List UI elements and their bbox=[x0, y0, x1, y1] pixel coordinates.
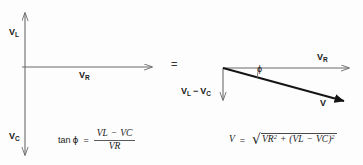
phasor-figure: VL VC VR = VR VL−VC V ϕ tanϕ = VL−VC VR … bbox=[0, 0, 363, 165]
formula-resultant-v: V = √ VR2+(VL−VC)2 bbox=[229, 133, 337, 147]
fraction-tan-phi: VL−VC VR bbox=[94, 129, 136, 151]
label-vl-minus-vc: VL−VC bbox=[181, 87, 211, 96]
label-vr-right: VR bbox=[317, 53, 328, 62]
label-phi-angle: ϕ bbox=[257, 66, 262, 74]
right-vector-resultant-v bbox=[223, 68, 344, 101]
label-resultant-v: V bbox=[320, 99, 326, 108]
equals-sign: = bbox=[171, 59, 177, 70]
label-vl-left: VL bbox=[9, 28, 19, 37]
formula-tan-phi: tanϕ = VL−VC VR bbox=[58, 129, 135, 151]
label-vr-left: VR bbox=[79, 71, 90, 80]
radical-group: √ VR2+(VL−VC)2 bbox=[252, 133, 337, 147]
label-vc-left: VC bbox=[9, 132, 20, 141]
